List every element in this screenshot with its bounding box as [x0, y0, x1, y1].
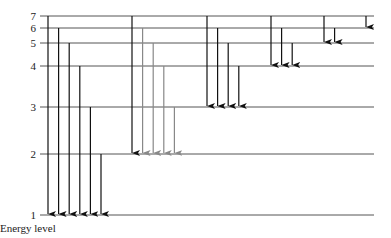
energy-level-diagram: 1234567 Energy level	[0, 0, 391, 238]
energy-level-label-2: 2	[31, 148, 37, 160]
series-lyman	[48, 16, 101, 214]
series-pfund	[324, 16, 335, 42]
energy-level-label-1: 1	[31, 209, 37, 221]
axis-title: Energy level	[0, 222, 56, 234]
energy-level-label-5: 5	[31, 37, 37, 49]
energy-levels: 1234567	[31, 10, 375, 221]
energy-level-label-3: 3	[31, 101, 37, 113]
energy-level-label-6: 6	[31, 22, 37, 34]
series-brackett	[271, 16, 292, 65]
series-balmer	[132, 16, 174, 153]
series-paschen	[207, 16, 239, 106]
energy-level-label-7: 7	[31, 10, 37, 22]
transition-arrows	[48, 16, 366, 214]
energy-level-label-4: 4	[31, 60, 37, 72]
